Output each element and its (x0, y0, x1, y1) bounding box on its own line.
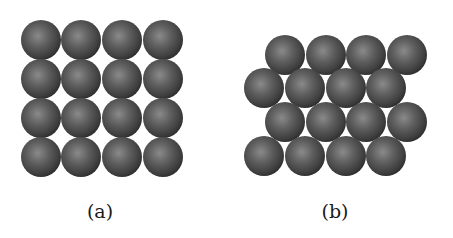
sphere (366, 68, 406, 108)
sphere (143, 137, 183, 177)
sphere (21, 20, 61, 60)
sphere (285, 136, 325, 176)
sphere (143, 98, 183, 138)
sphere (21, 137, 61, 177)
sphere (326, 68, 366, 108)
sphere (21, 98, 61, 138)
panel-a-label: (a) (87, 200, 113, 222)
sphere (102, 98, 142, 138)
sphere (306, 102, 346, 142)
sphere (143, 59, 183, 99)
sphere (61, 20, 101, 60)
sphere (387, 102, 427, 142)
square-packing-panel (21, 20, 183, 177)
sphere (102, 137, 142, 177)
sphere (102, 20, 142, 60)
sphere (102, 59, 142, 99)
panel-b-label: (b) (322, 200, 349, 222)
sphere (285, 68, 325, 108)
sphere (61, 98, 101, 138)
sphere (387, 35, 427, 75)
sphere (326, 136, 366, 176)
sphere (61, 59, 101, 99)
packing-diagram (0, 0, 453, 238)
sphere (244, 136, 284, 176)
sphere (346, 102, 386, 142)
sphere (366, 136, 406, 176)
sphere (244, 68, 284, 108)
sphere (265, 102, 305, 142)
sphere (21, 59, 61, 99)
sphere (143, 20, 183, 60)
hexagonal-packing-panel (244, 35, 427, 176)
sphere (61, 137, 101, 177)
